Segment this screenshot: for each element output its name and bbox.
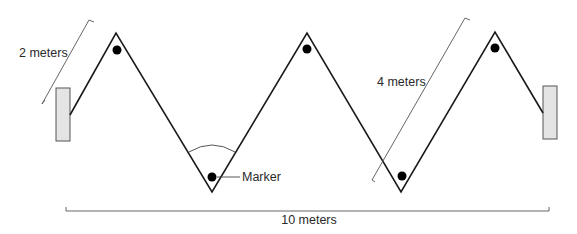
marker-dot xyxy=(113,46,122,55)
marker-dot xyxy=(491,44,500,53)
diagram-canvas: Marker 2 meters 4 meters 10 meters xyxy=(0,0,577,234)
zigzag-line xyxy=(70,32,543,192)
dimension-label-10m: 10 meters xyxy=(281,213,337,227)
marker-dot xyxy=(208,173,217,182)
marker-dot xyxy=(398,172,407,181)
zigzag-diagram: Marker 2 meters 4 meters 10 meters xyxy=(0,0,577,234)
marker-dot xyxy=(303,45,312,54)
marker-label: Marker xyxy=(242,170,281,184)
left-wall xyxy=(56,88,70,141)
right-wall xyxy=(543,86,557,139)
dimension-label-2m: 2 meters xyxy=(19,46,68,60)
dimension-label-4m: 4 meters xyxy=(377,75,426,89)
angle-arc xyxy=(189,145,235,152)
dimension-bracket-10m xyxy=(66,207,549,211)
